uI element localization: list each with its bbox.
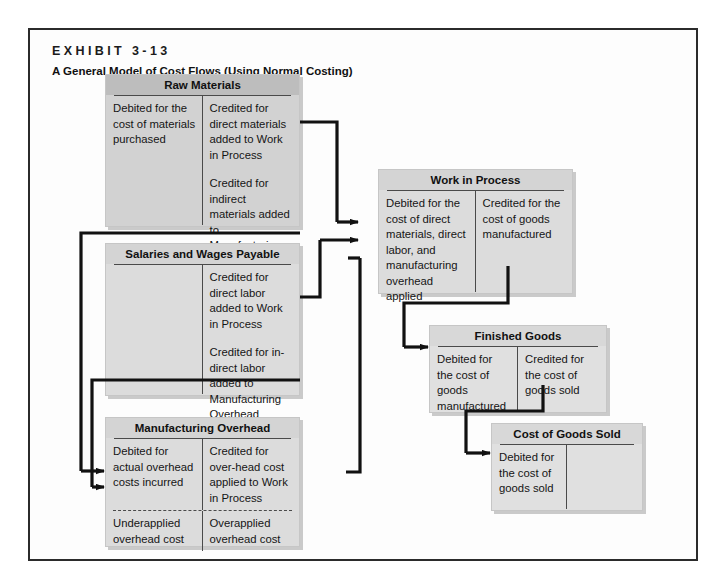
t-account-finished-goods: Finished Goods Debited for the cost of g… [429, 325, 607, 413]
manufacturing-overhead-debit-text: Debited for actual overhead costs incurr… [113, 444, 196, 491]
exhibit-label: EXHIBIT 3-13 [52, 44, 171, 58]
cost-of-goods-sold-title: Cost of Goods Sold [492, 424, 642, 444]
raw-materials-credit-text-1: Credited for direct materials added to W… [210, 101, 294, 163]
cost-of-goods-sold-credit-column [567, 445, 642, 509]
work-in-process-credit-text: Credited for the cost of goods manufactu… [483, 196, 567, 243]
raw-materials-debit-column: Debited for the cost of materials purcha… [106, 96, 203, 225]
finished-goods-debit-column: Debited for the cost of goods manufactur… [430, 347, 518, 411]
t-account-raw-materials: Raw Materials Debited for the cost of ma… [105, 74, 300, 227]
finished-goods-debit-text: Debited for the cost of goods manufactur… [437, 352, 511, 414]
manufacturing-overhead-debit-column: Debited for actual overhead costs incurr… [106, 439, 203, 510]
cost-of-goods-sold-debit-column: Debited for the cost of goods sold [492, 445, 567, 509]
finished-goods-credit-column: Credited for the cost of goods sold [518, 347, 606, 411]
manufacturing-overhead-underapplied-column: Underapplied overhead cost [106, 511, 203, 551]
work-in-process-debit-text: Debited for the cost of direct materials… [386, 196, 469, 305]
t-account-work-in-process: Work in Process Debited for the cost of … [378, 169, 573, 294]
manufacturing-overhead-overapplied-column: Overapplied overhead cost [203, 511, 300, 551]
manufacturing-overhead-credit-text: Credited for over-head cost applied to W… [210, 444, 294, 506]
salaries-wages-debit-column [106, 265, 203, 394]
manufacturing-overhead-credit-column: Credited for over-head cost applied to W… [203, 439, 300, 510]
exhibit-frame: EXHIBIT 3-13 A General Model of Cost Flo… [28, 28, 698, 561]
finished-goods-title: Finished Goods [430, 326, 606, 346]
raw-materials-debit-text: Debited for the cost of materials purcha… [113, 101, 196, 148]
work-in-process-debit-column: Debited for the cost of direct materials… [379, 191, 476, 292]
salaries-wages-title: Salaries and Wages Payable [106, 244, 299, 264]
work-in-process-title: Work in Process [379, 170, 572, 190]
raw-materials-title: Raw Materials [106, 75, 299, 95]
salaries-wages-credit-column: Credited for direct labor added to Work … [203, 265, 300, 394]
cost-of-goods-sold-debit-text: Debited for the cost of goods sold [499, 450, 560, 497]
manufacturing-overhead-title: Manufacturing Overhead [106, 418, 299, 438]
t-account-salaries-and-wages-payable: Salaries and Wages Payable Credited for … [105, 243, 300, 396]
manufacturing-overhead-underapplied-text: Underapplied overhead cost [113, 516, 196, 547]
work-in-process-credit-column: Credited for the cost of goods manufactu… [476, 191, 573, 292]
manufacturing-overhead-overapplied-text: Overapplied overhead cost [210, 516, 294, 547]
t-account-cost-of-goods-sold: Cost of Goods Sold Debited for the cost … [491, 423, 643, 511]
t-account-manufacturing-overhead: Manufacturing Overhead Debited for actua… [105, 417, 300, 547]
finished-goods-credit-text: Credited for the cost of goods sold [525, 352, 600, 399]
salaries-wages-credit-text-1: Credited for direct labor added to Work … [210, 270, 294, 332]
salaries-wages-credit-text-2: Credited for in-direct labor added to Ma… [210, 345, 294, 423]
raw-materials-credit-column: Credited for direct materials added to W… [203, 96, 300, 225]
